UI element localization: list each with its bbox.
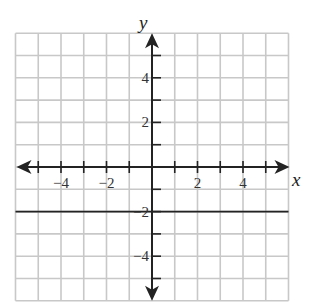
y-tick-label: 2 xyxy=(142,114,150,130)
x-axis-label: x xyxy=(291,169,301,190)
y-axis-label: y xyxy=(137,12,148,33)
x-tick-label: −4 xyxy=(53,175,69,191)
y-tick-label: 4 xyxy=(142,70,150,86)
x-tick-label: 4 xyxy=(239,175,247,191)
y-tick-label: −4 xyxy=(133,248,149,264)
coordinate-plane: −4−22442−2−4 x y xyxy=(0,0,313,307)
y-tick-label: −2 xyxy=(133,204,149,220)
x-tick-label: 2 xyxy=(194,175,202,191)
x-tick-label: −2 xyxy=(99,175,115,191)
